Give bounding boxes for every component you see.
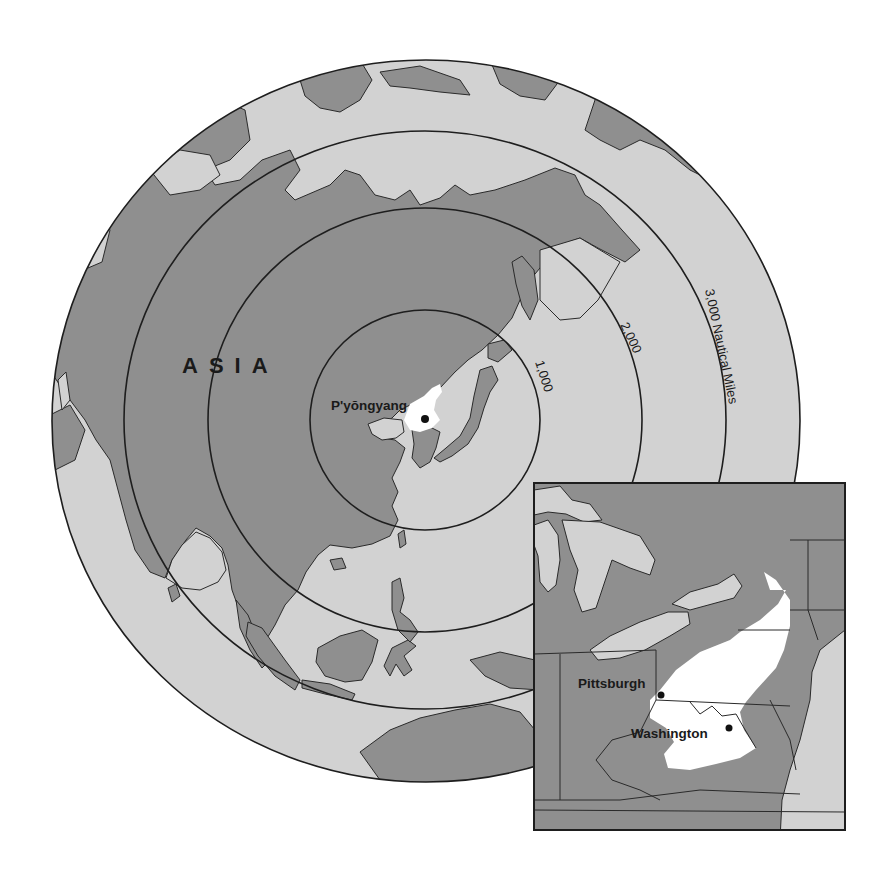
city-label-pittsburgh: Pittsburgh [578, 676, 646, 691]
city-dot-pittsburgh [658, 692, 665, 699]
landmass-taiwan [398, 530, 406, 548]
city-dot-washington [726, 725, 733, 732]
city-dot-pyongyang [421, 415, 429, 423]
city-label-washington: Washington [631, 726, 708, 741]
region-label-asia: ASIA [182, 353, 279, 378]
map-figure: ASIA P'yŏngyang 1,000 2,000 3,000 Nautic… [0, 0, 890, 880]
inset-map-us-east: Pittsburgh Washington [534, 483, 860, 840]
city-label-pyongyang: P'yŏngyang [331, 398, 407, 413]
